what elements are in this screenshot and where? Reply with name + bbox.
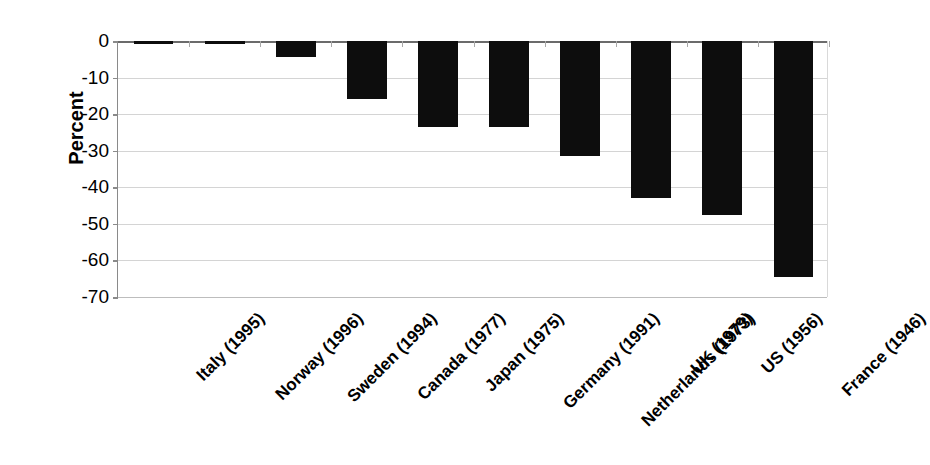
bar[interactable] [560,41,600,156]
x-axis-label: Italy (1995) [192,309,268,385]
x-axis-label: Germany (1991) [559,309,663,413]
x-axis-tick-mark [687,41,688,47]
y-axis-tick-label: -60 [82,249,109,271]
x-axis-tick-mark [331,41,332,47]
x-axis-tick-mark [474,41,475,47]
y-axis-tick-label: -50 [82,213,109,235]
bar[interactable] [418,41,458,127]
x-axis-label: UK (1979) [687,309,757,379]
y-axis-tick-label: -10 [82,67,109,89]
x-axis-label: US (1956) [758,309,827,378]
plot-area: 0-10-20-30-40-50-60-70 [117,41,828,297]
bar[interactable] [134,41,174,44]
y-axis-tick-label: 0 [98,30,109,52]
x-axis-tick-mark [189,41,190,47]
y-axis-tick-label: -40 [82,176,109,198]
bar[interactable] [205,41,245,44]
bar[interactable] [489,41,529,127]
bars-group [118,41,827,297]
x-axis-labels-group: Italy (1995)Norway (1996)Sweden (1994)Ca… [0,297,843,465]
bar[interactable] [347,41,387,99]
bar[interactable] [774,41,814,277]
y-axis-tick-label: -20 [82,103,109,125]
bar[interactable] [276,41,316,57]
x-axis-tick-mark [758,41,759,47]
x-axis-tick-mark [260,41,261,47]
x-axis-tick-mark [616,41,617,47]
bar[interactable] [702,41,742,215]
x-axis-tick-mark [402,41,403,47]
x-axis-tick-mark [829,41,830,47]
y-axis-tick-label: -30 [82,140,109,162]
x-axis-tick-mark [545,41,546,47]
x-axis-label: France (1946) [839,309,930,401]
bar[interactable] [631,41,671,198]
